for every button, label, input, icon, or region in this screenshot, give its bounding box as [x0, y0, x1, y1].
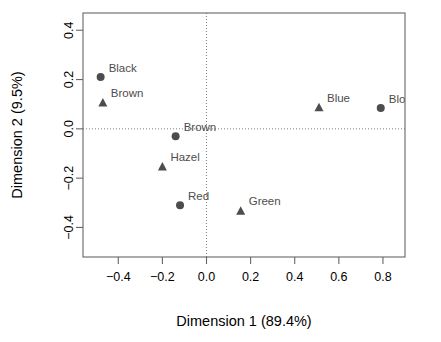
- x-tick-label: 0.4: [286, 270, 303, 284]
- marker-circle-brown: [172, 132, 180, 140]
- y-tick-label: 0.4: [63, 22, 77, 39]
- point-label-hazel: Hazel: [170, 151, 199, 163]
- plot-frame: [83, 13, 405, 257]
- point-label-blue: Blue: [327, 92, 350, 104]
- y-tick-label: 0.0: [63, 120, 77, 137]
- point-label-red: Red: [188, 190, 209, 202]
- y-tick-label: 0.2: [63, 71, 77, 88]
- marker-triangle-green: [236, 206, 245, 215]
- point-label-blond: Blond: [389, 93, 418, 105]
- marker-triangle-blue: [314, 103, 323, 112]
- correspondence-analysis-plot: BlackBrownRedBlondBrownHazelGreenBlue −0…: [0, 0, 441, 342]
- x-tick-label: 0.0: [198, 270, 215, 284]
- x-tick-label: −0.4: [106, 270, 131, 284]
- x-tick-label: 0.8: [374, 270, 391, 284]
- y-axis-title: Dimension 2 (9.5%): [9, 71, 25, 198]
- data-point-labels: BlackBrownRedBlondBrownHazelGreenBlue: [109, 62, 419, 207]
- marker-circle-red: [176, 201, 184, 209]
- x-axis: −0.4−0.20.00.20.40.60.8: [106, 257, 392, 284]
- reference-lines: [83, 13, 405, 257]
- y-tick-label: −0.4: [63, 215, 77, 240]
- marker-triangle-brown: [98, 98, 107, 107]
- x-axis-title: Dimension 1 (89.4%): [176, 313, 311, 329]
- scatter-plot-svg: BlackBrownRedBlondBrownHazelGreenBlue −0…: [0, 0, 441, 342]
- point-label-brown: Brown: [111, 87, 144, 99]
- y-axis: 0.40.20.0−0.2−0.4: [63, 22, 84, 240]
- y-tick-label: −0.2: [63, 166, 77, 191]
- x-tick-label: −0.2: [150, 270, 175, 284]
- x-tick-label: 0.6: [330, 270, 347, 284]
- marker-circle-blond: [377, 104, 385, 112]
- point-label-brown: Brown: [184, 121, 217, 133]
- point-label-black: Black: [109, 62, 137, 74]
- x-tick-label: 0.2: [242, 270, 259, 284]
- marker-triangle-hazel: [158, 162, 167, 171]
- marker-circle-black: [97, 73, 105, 81]
- point-label-green: Green: [249, 195, 281, 207]
